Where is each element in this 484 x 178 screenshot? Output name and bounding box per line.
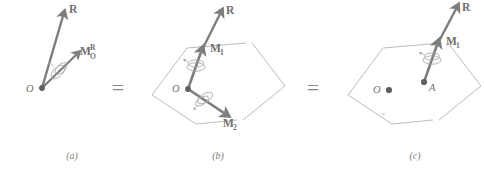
label-origin-panel-c: O <box>373 84 381 95</box>
origin-dot-panel-c <box>386 87 392 93</box>
label-point-a-panel-c: A <box>428 82 436 93</box>
force-couple-equivalence-diagram: R M R O O (a) = <box>0 0 484 178</box>
panel-c: R M 1 O A (c) <box>348 1 481 162</box>
vector-M2-panel-b <box>188 89 224 113</box>
plane-parallelogram-panel-c <box>348 43 481 124</box>
label-R-panel-c: R <box>462 1 471 13</box>
origin-dot-panel-b <box>185 86 191 92</box>
equals-sign-2: = <box>307 75 319 100</box>
vector-M1-panel-b <box>185 52 205 89</box>
caption-panel-c: (c) <box>409 150 421 162</box>
vector-M1-panel-c <box>421 45 441 82</box>
label-R-panel-a: R <box>69 3 78 15</box>
panel-a: R M R O O (a) <box>26 3 96 162</box>
label-origin-panel-a: O <box>26 83 34 94</box>
label-M-superscript-R-panel-a: R <box>90 43 96 52</box>
point-a-dot-panel-c <box>421 79 427 85</box>
origin-dot-panel-a <box>39 85 45 91</box>
label-M-subscript-O-panel-a: O <box>90 52 96 61</box>
label-M1-subscript-panel-c: 1 <box>456 41 460 50</box>
label-R-panel-b: R <box>226 4 235 16</box>
label-M1-subscript-panel-b: 1 <box>220 48 224 57</box>
caption-panel-b: (b) <box>212 150 224 162</box>
label-origin-panel-b: O <box>172 83 180 94</box>
label-M2-subscript-panel-b: 2 <box>233 123 237 132</box>
equals-sign-1: = <box>112 75 124 100</box>
panel-b: R M 1 M 2 O (b) <box>152 4 285 162</box>
figure-container: R M R O O (a) = <box>0 0 484 178</box>
caption-panel-a: (a) <box>66 150 78 162</box>
